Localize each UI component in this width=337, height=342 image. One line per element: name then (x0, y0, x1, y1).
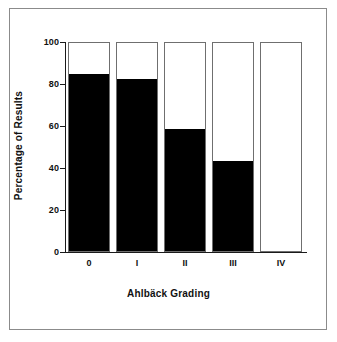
x-tick-label-0: 0 (68, 258, 110, 269)
bar-2-filled (165, 129, 205, 251)
x-tick-label-4: IV (260, 258, 302, 269)
x-axis-title: Ahlbäck Grading (0, 288, 337, 299)
bar-3 (212, 42, 254, 252)
y-tick-label-80: 80 (49, 79, 59, 89)
bar-3-filled (213, 161, 253, 252)
y-axis-title: Percentage of Results (13, 66, 24, 226)
figure: Percentage of Results 100 80 60 40 20 0 (0, 0, 337, 342)
y-tick-60 (60, 126, 65, 127)
x-tick-label-3: III (212, 258, 254, 269)
y-tick-40 (60, 168, 65, 169)
plot-area: Percentage of Results 100 80 60 40 20 0 (0, 0, 337, 342)
y-tick-label-100: 100 (44, 37, 59, 47)
y-tick-0 (60, 252, 65, 253)
x-tick-label-1: I (116, 258, 158, 269)
bar-2 (164, 42, 206, 252)
bar-1 (116, 42, 158, 252)
bar-4 (260, 42, 302, 252)
y-tick-label-0: 0 (54, 247, 59, 257)
y-tick-80 (60, 84, 65, 85)
y-tick-100 (60, 42, 65, 43)
x-axis-line (65, 252, 307, 253)
bar-1-filled (117, 79, 157, 251)
y-tick-20 (60, 210, 65, 211)
y-tick-label-60: 60 (49, 121, 59, 131)
y-axis-line (65, 42, 66, 253)
bar-0-filled (69, 74, 109, 251)
bar-0 (68, 42, 110, 252)
y-tick-label-40: 40 (49, 163, 59, 173)
y-tick-label-20: 20 (49, 205, 59, 215)
x-tick-label-2: II (164, 258, 206, 269)
